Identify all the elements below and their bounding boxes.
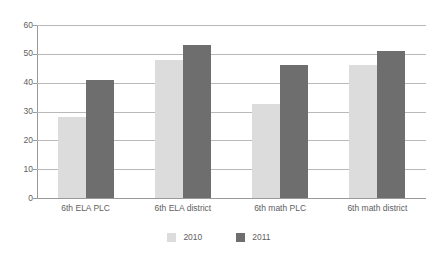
y-tick-label: 10: [3, 165, 33, 174]
plot-area: [37, 25, 426, 198]
bar: [86, 80, 114, 198]
bar: [252, 104, 280, 198]
bar-chart: 0102030405060 6th ELA PLC6th ELA distric…: [0, 0, 438, 261]
gridline: [37, 198, 426, 199]
legend-label: 2011: [252, 232, 270, 242]
bar: [183, 45, 211, 198]
bar: [58, 117, 86, 198]
legend-label: 2010: [183, 232, 202, 242]
y-tick-label: 0: [3, 194, 33, 203]
bar: [155, 60, 183, 198]
y-tick-label: 60: [3, 21, 33, 30]
legend-swatch-icon: [236, 233, 245, 242]
legend-item[interactable]: 2010: [167, 232, 202, 242]
x-axis-label: 6th math PLC: [232, 203, 329, 214]
bars-layer: [37, 25, 426, 198]
legend-swatch-icon: [167, 233, 176, 242]
x-axis-labels: 6th ELA PLC6th ELA district6th math PLC6…: [37, 203, 426, 217]
y-axis: 0102030405060: [0, 0, 33, 261]
bar: [349, 65, 377, 198]
bar: [377, 51, 405, 198]
y-tick-label: 50: [3, 49, 33, 58]
x-axis-label: 6th ELA district: [134, 203, 231, 214]
x-axis-label: 6th math district: [329, 203, 426, 214]
y-tick-label: 30: [3, 107, 33, 116]
legend: 20102011: [0, 232, 438, 242]
y-tick-label: 20: [3, 136, 33, 145]
legend-item[interactable]: 2011: [236, 232, 270, 242]
y-tick-label: 40: [3, 78, 33, 87]
x-axis-label: 6th ELA PLC: [37, 203, 134, 214]
bar: [280, 65, 308, 198]
